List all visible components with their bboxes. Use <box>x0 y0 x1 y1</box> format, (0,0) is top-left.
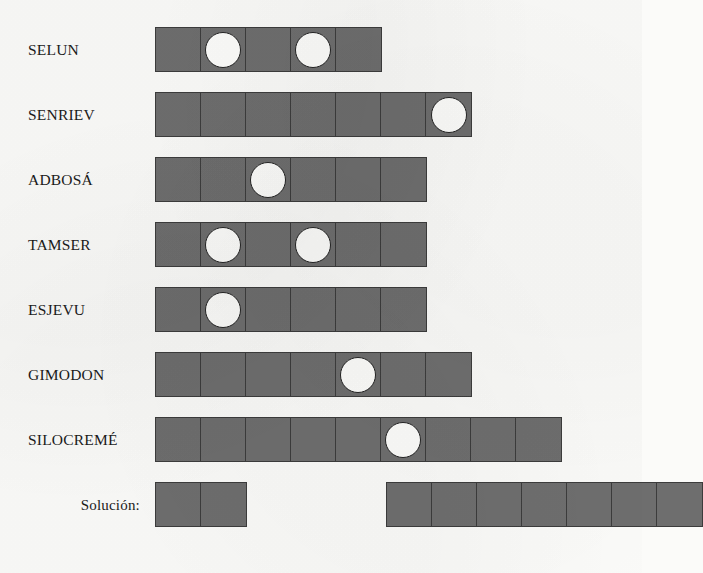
letter-cell[interactable] <box>156 418 201 461</box>
letter-cell[interactable] <box>291 93 336 136</box>
circle-marker-icon <box>250 162 286 198</box>
puzzle-row: TAMSER <box>0 222 642 268</box>
letter-cell[interactable] <box>381 223 426 266</box>
letter-strip <box>155 482 247 527</box>
letter-cell[interactable] <box>336 353 381 396</box>
letter-cell[interactable] <box>471 418 516 461</box>
letter-cell[interactable] <box>567 483 612 526</box>
letter-cell[interactable] <box>426 418 471 461</box>
letter-cell[interactable] <box>201 158 246 201</box>
letter-strip <box>155 157 427 202</box>
letter-cell[interactable] <box>657 483 702 526</box>
letter-cell[interactable] <box>246 93 291 136</box>
letter-cell[interactable] <box>336 28 381 71</box>
letter-cell[interactable] <box>291 418 336 461</box>
letter-strip <box>155 222 427 267</box>
puzzle-row: GIMODON <box>0 352 642 398</box>
letter-cell[interactable] <box>156 158 201 201</box>
word-label: SENRIEV <box>28 92 140 138</box>
letter-cell[interactable] <box>291 28 336 71</box>
letter-cell[interactable] <box>387 483 432 526</box>
letter-cell[interactable] <box>246 288 291 331</box>
letter-cell[interactable] <box>381 418 426 461</box>
word-label: TAMSER <box>28 222 140 268</box>
letter-cell[interactable] <box>477 483 522 526</box>
letter-cell[interactable] <box>201 288 246 331</box>
letter-strip <box>155 352 472 397</box>
letter-cell[interactable] <box>246 418 291 461</box>
word-label: SILOCREMÉ <box>28 417 140 463</box>
letter-cell[interactable] <box>156 483 201 526</box>
circle-marker-icon <box>205 32 241 68</box>
letter-cell[interactable] <box>516 418 561 461</box>
letter-cell[interactable] <box>426 353 471 396</box>
letter-strip <box>155 417 562 462</box>
letter-cell[interactable] <box>381 288 426 331</box>
solution-label: Solución: <box>10 482 140 528</box>
letter-cell[interactable] <box>156 223 201 266</box>
puzzle-row: SELUN <box>0 27 642 73</box>
letter-cell[interactable] <box>336 418 381 461</box>
letter-cell[interactable] <box>246 158 291 201</box>
letter-cell[interactable] <box>381 158 426 201</box>
puzzle-row: Solución: <box>0 482 642 528</box>
letter-cell[interactable] <box>156 353 201 396</box>
letter-cell[interactable] <box>291 353 336 396</box>
puzzle-row: ADBOSÁ <box>0 157 642 203</box>
letter-cell[interactable] <box>156 288 201 331</box>
letter-cell[interactable] <box>336 93 381 136</box>
word-label: ESJEVU <box>28 287 140 333</box>
letter-cell[interactable] <box>201 93 246 136</box>
circle-marker-icon <box>205 227 241 263</box>
letter-strip <box>155 92 472 137</box>
letter-strip <box>386 482 703 527</box>
letter-cell[interactable] <box>201 353 246 396</box>
letter-cell[interactable] <box>291 288 336 331</box>
letter-cell[interactable] <box>201 483 246 526</box>
circle-marker-icon <box>431 97 467 133</box>
letter-strip <box>155 27 382 72</box>
circle-marker-icon <box>295 32 331 68</box>
letter-cell[interactable] <box>156 93 201 136</box>
letter-cell[interactable] <box>246 28 291 71</box>
circle-marker-icon <box>340 357 376 393</box>
letter-cell[interactable] <box>381 93 426 136</box>
letter-cell[interactable] <box>246 353 291 396</box>
puzzle-row: SILOCREMÉ <box>0 417 642 463</box>
word-label: SELUN <box>28 27 140 73</box>
letter-cell[interactable] <box>336 223 381 266</box>
letter-cell[interactable] <box>201 223 246 266</box>
letter-cell[interactable] <box>201 418 246 461</box>
letter-cell[interactable] <box>381 353 426 396</box>
circle-marker-icon <box>385 422 421 458</box>
circle-marker-icon <box>205 292 241 328</box>
letter-cell[interactable] <box>246 223 291 266</box>
letter-cell[interactable] <box>201 28 246 71</box>
letter-strip <box>155 287 427 332</box>
letter-cell[interactable] <box>522 483 567 526</box>
word-label: GIMODON <box>28 352 140 398</box>
word-label: ADBOSÁ <box>28 157 140 203</box>
puzzle-row: SENRIEV <box>0 92 642 138</box>
letter-cell[interactable] <box>291 223 336 266</box>
letter-cell[interactable] <box>612 483 657 526</box>
letter-cell[interactable] <box>336 158 381 201</box>
letter-cell[interactable] <box>432 483 477 526</box>
circle-marker-icon <box>295 227 331 263</box>
letter-cell[interactable] <box>156 28 201 71</box>
letter-cell[interactable] <box>336 288 381 331</box>
puzzle-row: ESJEVU <box>0 287 642 333</box>
letter-cell[interactable] <box>426 93 471 136</box>
letter-cell[interactable] <box>291 158 336 201</box>
